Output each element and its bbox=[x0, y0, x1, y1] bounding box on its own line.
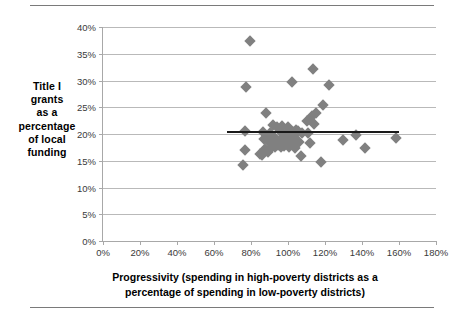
y-tick-mark-5 bbox=[99, 214, 103, 215]
y-tick-mark-30 bbox=[99, 81, 103, 82]
chart-figure: Title Igrantsas apercentageof localfundi… bbox=[0, 0, 464, 320]
x-tick-mark-180 bbox=[436, 241, 437, 245]
x-tick-mark-120 bbox=[325, 241, 326, 245]
y-tick-mark-10 bbox=[99, 188, 103, 189]
y-tick-label-10: 10% bbox=[56, 182, 96, 193]
x-tick-mark-40 bbox=[177, 241, 178, 245]
y-tick-mark-20 bbox=[99, 134, 103, 135]
y-tick-mark-40 bbox=[99, 27, 103, 28]
y-tick-label-25: 25% bbox=[56, 102, 96, 113]
y-tick-mark-15 bbox=[99, 161, 103, 162]
x-tick-mark-0 bbox=[103, 241, 104, 245]
gridline-y-40 bbox=[103, 27, 436, 28]
y-tick-label-40: 40% bbox=[56, 22, 96, 33]
x-tick-mark-60 bbox=[214, 241, 215, 245]
y-tick-mark-35 bbox=[99, 54, 103, 55]
y-tick-label-0: 0% bbox=[56, 236, 96, 247]
y-axis-title: Title Igrantsas apercentageof localfundi… bbox=[4, 80, 90, 159]
gridline-y-5 bbox=[103, 214, 436, 215]
y-tick-label-5: 5% bbox=[56, 209, 96, 220]
gridline-y-25 bbox=[103, 107, 436, 108]
bottom-divider-rule bbox=[30, 307, 434, 308]
y-tick-label-15: 15% bbox=[56, 155, 96, 166]
y-tick-mark-25 bbox=[99, 107, 103, 108]
x-tick-mark-160 bbox=[399, 241, 400, 245]
x-axis-line bbox=[102, 241, 437, 242]
x-axis-title: Progressivity (spending in high-poverty … bbox=[60, 270, 430, 300]
x-tick-mark-20 bbox=[140, 241, 141, 245]
y-tick-label-30: 30% bbox=[56, 75, 96, 86]
y-tick-label-35: 35% bbox=[56, 48, 96, 59]
gridline-y-10 bbox=[103, 188, 436, 189]
x-tick-label-180: 180% bbox=[414, 247, 458, 258]
x-tick-mark-80 bbox=[251, 241, 252, 245]
gridline-y-15 bbox=[103, 161, 436, 162]
x-axis-title-line-1: percentage of spending in low-poverty di… bbox=[60, 285, 430, 300]
trend-line bbox=[227, 131, 399, 133]
gridline-y-30 bbox=[103, 81, 436, 82]
plot-area: 0%5%10%15%20%25%30%35%40% 0%20%40%60%80%… bbox=[103, 27, 436, 241]
x-tick-mark-140 bbox=[362, 241, 363, 245]
top-divider-rule bbox=[30, 5, 434, 6]
gridline-y-35 bbox=[103, 54, 436, 55]
x-axis-title-line-0: Progressivity (spending in high-poverty … bbox=[60, 270, 430, 285]
x-tick-mark-100 bbox=[288, 241, 289, 245]
y-tick-label-20: 20% bbox=[56, 129, 96, 140]
